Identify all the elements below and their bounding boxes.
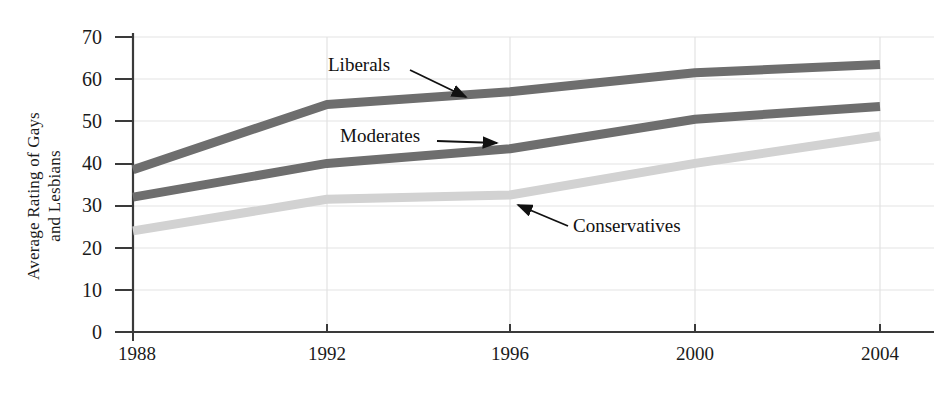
- annotation-arrow-conservatives: [518, 205, 568, 226]
- annotation-arrow-moderates: [437, 141, 497, 143]
- gridlines-horizontal: [133, 37, 934, 290]
- chart-container: Average Rating of Gays and Lesbians 70 6…: [0, 0, 934, 403]
- y-axis-ticks: [115, 37, 133, 332]
- plot-area: [0, 0, 934, 403]
